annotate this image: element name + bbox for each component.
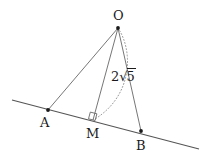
label-point-m: M (86, 127, 99, 140)
geometry-figure: O A M B 2√5 (0, 0, 212, 162)
right-angle-marker (89, 112, 97, 120)
segment-oa (48, 28, 118, 110)
label-point-o: O (113, 9, 124, 22)
label-point-a: A (40, 116, 49, 129)
point-o (116, 26, 120, 30)
radicand: 5 (127, 68, 136, 84)
diagram-canvas (0, 0, 212, 162)
label-point-b: B (136, 139, 146, 152)
length-label-om: 2√5 (111, 70, 136, 83)
point-b (139, 129, 143, 133)
point-a (46, 108, 50, 112)
length-coefficient: 2 (111, 69, 119, 84)
